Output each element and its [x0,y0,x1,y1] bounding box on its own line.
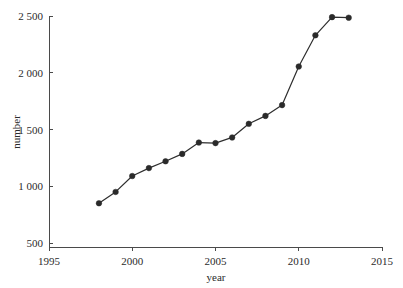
y-tick-group [49,16,53,243]
data-point [246,121,252,127]
y-tick-label: 2 500 [18,10,43,22]
series-marker-group [96,14,351,206]
y-tick-label: 1 500 [18,124,43,136]
data-point [229,135,235,141]
x-tick-group [49,247,382,251]
data-point [313,32,319,38]
data-point [179,151,185,157]
data-point [113,189,119,195]
data-point [346,15,352,21]
data-series-group [96,14,351,206]
x-tick-label: 2005 [205,255,228,267]
y-axis-title: number [10,115,22,149]
y-tick-label: 500 [27,237,44,249]
data-point [279,102,285,108]
data-point [129,173,135,179]
line-chart: 5001 0001 5002 0002 500 number 199520002… [0,0,403,288]
data-point [296,64,302,70]
data-point [263,113,269,119]
data-point [163,158,169,164]
x-tick-label: 2000 [121,255,144,267]
data-point [213,140,219,146]
chart-canvas: 5001 0001 5002 0002 500 number 199520002… [0,0,403,288]
x-tick-label-group: 19952000200520102015 [38,255,394,267]
x-tick-label: 2015 [371,255,394,267]
x-axis: 19952000200520102015 year [38,247,394,283]
series-line [99,17,349,203]
data-point [146,165,152,171]
data-point [329,14,335,20]
data-point [96,200,102,206]
x-tick-label: 2010 [288,255,311,267]
y-axis: 5001 0001 5002 0002 500 number [10,10,53,249]
y-tick-label: 1 000 [18,180,43,192]
y-tick-label-group: 5001 0001 5002 0002 500 [18,10,43,249]
x-axis-title: year [207,271,226,283]
y-tick-label: 2 000 [18,67,43,79]
data-point [196,140,202,146]
x-tick-label: 1995 [38,255,61,267]
